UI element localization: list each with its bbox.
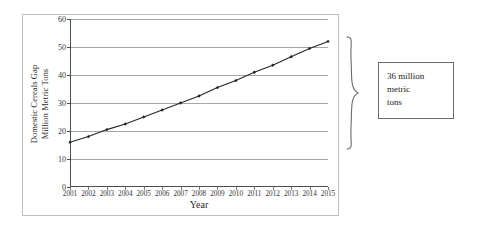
x-axis-tick-label: 2007 bbox=[173, 190, 187, 198]
plot-area: 0102030405060 20012002200320042005200620… bbox=[70, 19, 328, 187]
x-axis-tick-label: 2011 bbox=[247, 190, 261, 198]
y-axis-tick-label: 10 bbox=[58, 155, 66, 164]
x-axis-tick-label: 2001 bbox=[63, 190, 77, 198]
y-axis-title-line-1: Domestic Cereals Gap bbox=[29, 65, 40, 143]
x-axis-tick-label: 2012 bbox=[266, 190, 280, 198]
x-axis-tick-label: 2015 bbox=[321, 190, 335, 198]
data-point-marker bbox=[160, 108, 163, 111]
y-axis-title-line-2: Million Metric Tons bbox=[40, 65, 51, 143]
x-axis-tick-label: 2009 bbox=[210, 190, 224, 198]
x-axis-tick-label: 2004 bbox=[118, 190, 132, 198]
x-axis-title: Year bbox=[70, 199, 328, 210]
data-point-marker bbox=[253, 71, 256, 74]
right-curly-brace-icon bbox=[345, 36, 361, 150]
data-point-marker bbox=[197, 94, 200, 97]
data-point-marker bbox=[308, 47, 311, 50]
y-axis-tick-label: 50 bbox=[58, 43, 66, 52]
x-axis-tick-label: 2014 bbox=[302, 190, 316, 198]
data-point-marker bbox=[87, 135, 90, 138]
data-point-marker bbox=[271, 64, 274, 67]
y-axis-tick-label: 40 bbox=[58, 71, 66, 80]
chart-screenshot: Domestic Cereals Gap Million Metric Tons… bbox=[0, 0, 477, 239]
data-point-marker bbox=[216, 86, 219, 89]
annotation-callout-box: 36 million metric tons bbox=[378, 62, 454, 119]
x-axis-tick-label: 2013 bbox=[284, 190, 298, 198]
callout-line-2: metric bbox=[387, 83, 453, 96]
y-axis-tick-label: 30 bbox=[58, 99, 66, 108]
y-axis-tick-label: 60 bbox=[58, 15, 66, 24]
x-axis-tick-label: 2002 bbox=[81, 190, 95, 198]
data-point-marker bbox=[289, 55, 292, 58]
data-point-marker bbox=[234, 79, 237, 82]
x-axis-tick-label: 2008 bbox=[192, 190, 206, 198]
data-series-svg bbox=[70, 19, 328, 187]
series-markers bbox=[68, 40, 329, 144]
y-axis-title: Domestic Cereals Gap Million Metric Tons bbox=[26, 16, 54, 192]
data-point-marker bbox=[142, 115, 145, 118]
x-axis-tick-label: 2005 bbox=[137, 190, 151, 198]
y-axis-tick-label: 20 bbox=[58, 127, 66, 136]
x-axis-tick-label: 2003 bbox=[100, 190, 114, 198]
callout-line-1: 36 million bbox=[387, 70, 453, 83]
callout-line-3: tons bbox=[387, 96, 453, 109]
x-axis-tick-label: 2010 bbox=[229, 190, 243, 198]
x-axis-tick-label: 2006 bbox=[155, 190, 169, 198]
data-point-marker bbox=[179, 101, 182, 104]
data-point-marker bbox=[124, 122, 127, 125]
series-line bbox=[70, 41, 328, 142]
data-point-marker bbox=[105, 128, 108, 131]
